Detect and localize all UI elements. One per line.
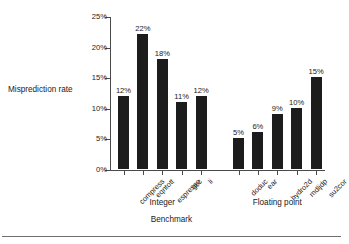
x-axis-title: Benchmark — [0, 215, 343, 225]
bar-value-label: 11% — [174, 92, 189, 101]
x-category-label: doduc — [248, 177, 269, 198]
group-label: Floating point — [217, 198, 337, 208]
bar — [176, 102, 187, 169]
bar-value-label: 10% — [289, 98, 304, 107]
bottom-divider — [2, 236, 341, 237]
bar-item: 22% — [137, 22, 148, 169]
x-tick-mark — [201, 171, 202, 175]
bar — [196, 96, 207, 169]
x-tick-mark — [124, 171, 125, 175]
x-tick-mark — [316, 171, 317, 175]
bar-item: 12% — [196, 84, 207, 169]
x-category-label: li — [206, 177, 215, 186]
bar-value-label: 5% — [233, 128, 244, 137]
y-tick-label: 10% — [92, 104, 107, 113]
group-label: Integer — [102, 198, 222, 208]
bar — [291, 108, 302, 169]
y-tick-label: 0% — [96, 165, 107, 174]
bar-item: 18% — [157, 47, 168, 169]
x-tick-mark — [143, 171, 144, 175]
y-tick-label: 20% — [92, 43, 107, 52]
bar — [157, 59, 168, 169]
bar-value-label: 22% — [135, 24, 150, 33]
x-tick-mark — [162, 171, 163, 175]
bar-item: 6% — [252, 120, 263, 169]
bar-item: 12% — [118, 84, 129, 169]
bar — [272, 114, 283, 169]
bar-item: 5% — [233, 126, 244, 169]
x-tick-mark — [297, 171, 298, 175]
bar-value-label: 18% — [155, 49, 170, 58]
y-tick-label: 15% — [92, 73, 107, 82]
x-tick-mark — [258, 171, 259, 175]
bar-item: 15% — [311, 65, 322, 169]
bar — [137, 34, 148, 169]
y-tick-label: 25% — [92, 12, 107, 21]
bar — [252, 132, 263, 169]
x-category-label: ear — [265, 177, 279, 191]
x-tick-mark — [239, 171, 240, 175]
x-category-label: su2cor — [327, 177, 349, 199]
x-tick-mark — [277, 171, 278, 175]
bar-value-label: 9% — [272, 104, 283, 113]
bar-value-label: 12% — [116, 86, 131, 95]
bar — [233, 138, 244, 169]
bar — [311, 77, 322, 169]
bar-item: 11% — [176, 90, 187, 169]
plot-area: 0%5%10%15%20%25% 12%22%18%11%12%5%6%9%10… — [110, 17, 325, 170]
bar-item: 9% — [272, 102, 283, 169]
y-tick-label: 5% — [96, 134, 107, 143]
bar-item: 10% — [291, 96, 302, 169]
x-tick-mark — [182, 171, 183, 175]
bar — [118, 96, 129, 169]
y-axis-line — [110, 17, 111, 171]
bar-value-label: 15% — [308, 67, 323, 76]
bar-value-label: 6% — [252, 122, 263, 131]
bar-value-label: 12% — [193, 86, 208, 95]
y-axis-title: Misprediction rate — [8, 85, 88, 95]
